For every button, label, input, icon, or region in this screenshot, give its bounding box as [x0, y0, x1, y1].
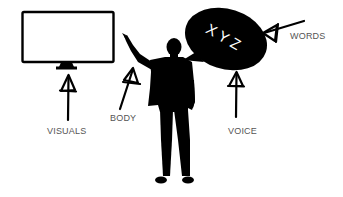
- arrow-voice-icon: [228, 72, 244, 117]
- arrow-body-icon: [120, 68, 140, 109]
- arrow-visuals-icon: [60, 75, 76, 120]
- monitor-icon: [23, 12, 114, 70]
- label-body: BODY: [110, 113, 136, 123]
- diagram-drawing: XYZ: [0, 0, 343, 197]
- communication-diagram: XYZ VISUALS BODY VOICE WORDS: [0, 0, 343, 197]
- label-visuals: VISUALS: [47, 126, 86, 136]
- label-voice: VOICE: [228, 126, 257, 136]
- presenter-silhouette: [122, 33, 195, 184]
- label-words: WORDS: [290, 31, 326, 41]
